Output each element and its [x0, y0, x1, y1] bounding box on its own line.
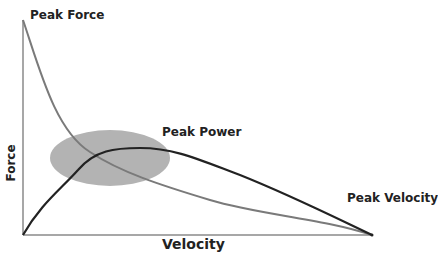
- peak-velocity-label: Peak Velocity: [347, 191, 438, 205]
- peak-power-label: Peak Power: [162, 125, 241, 139]
- peak-power-region: [50, 130, 170, 186]
- peak-force-label: Peak Force: [30, 8, 104, 22]
- x-axis-label: Velocity: [162, 236, 225, 252]
- y-axis-label: Force: [4, 144, 18, 181]
- peak-velocity-point: [371, 234, 374, 237]
